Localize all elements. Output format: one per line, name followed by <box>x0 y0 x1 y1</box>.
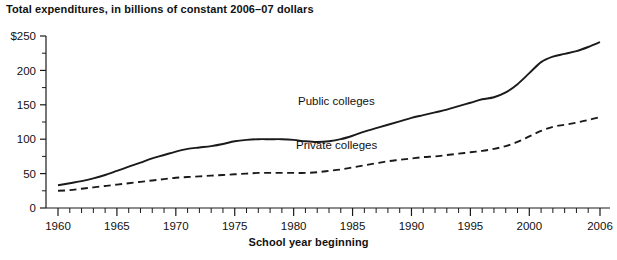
x-tick-label: 1970 <box>163 220 189 232</box>
x-tick-label: 2000 <box>517 220 543 232</box>
y-tick-label: 0 <box>30 202 36 214</box>
y-tick-label: 200 <box>17 65 36 77</box>
x-tick-label: 1965 <box>104 220 130 232</box>
y-tick-label: 100 <box>17 133 36 145</box>
chart-plot-area: $250200150100500196019651970197519801985… <box>0 0 617 260</box>
y-tick-label: $250 <box>10 30 36 42</box>
x-tick-label: 1960 <box>45 220 71 232</box>
series-line-private-colleges <box>58 117 600 191</box>
series-label-public-colleges: Public colleges <box>298 95 375 107</box>
chart-container: Total expenditures, in billions of const… <box>0 0 617 260</box>
y-tick-label: 150 <box>17 99 36 111</box>
series-label-private-colleges: Private colleges <box>296 139 377 151</box>
series-line-public-colleges <box>58 42 600 185</box>
x-tick-label: 2006 <box>587 220 613 232</box>
x-tick-label: 1980 <box>281 220 307 232</box>
x-tick-label: 1990 <box>399 220 425 232</box>
x-tick-label: 1995 <box>458 220 484 232</box>
x-axis-title: School year beginning <box>0 236 617 248</box>
x-tick-label: 1985 <box>340 220 366 232</box>
y-tick-label: 50 <box>23 168 36 180</box>
x-tick-label: 1975 <box>222 220 248 232</box>
